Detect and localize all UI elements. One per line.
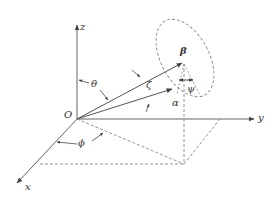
y-axis-label: y [258, 113, 264, 123]
diagram-svg [0, 0, 276, 199]
cone-line-left [177, 64, 184, 94]
x-axis [17, 119, 77, 183]
phi-arrow-x [57, 142, 77, 144]
origin-label: O [64, 110, 72, 120]
theta-arrow-vector [100, 90, 108, 100]
theta-arrow-z [79, 80, 89, 83]
psi-label: ψ [187, 84, 195, 94]
phi-label: ϕ [78, 138, 85, 148]
zeta-arrow-lower [146, 104, 149, 112]
zeta-arrow-upper [132, 70, 140, 77]
alpha-label: α [172, 98, 179, 108]
zeta-label: ζ [146, 80, 151, 90]
x-axis-label: x [25, 182, 31, 192]
phi-arrow-projection [92, 133, 103, 141]
z-axis-label: z [80, 22, 85, 32]
y-parallel-line [184, 119, 220, 164]
beta-label: β [180, 46, 187, 56]
diagram-canvas: z y x O θ ϕ ζ α β ψ [0, 0, 276, 199]
xy-projection-line [77, 119, 184, 164]
cone-ellipse [144, 10, 226, 107]
theta-label: θ [91, 79, 97, 89]
